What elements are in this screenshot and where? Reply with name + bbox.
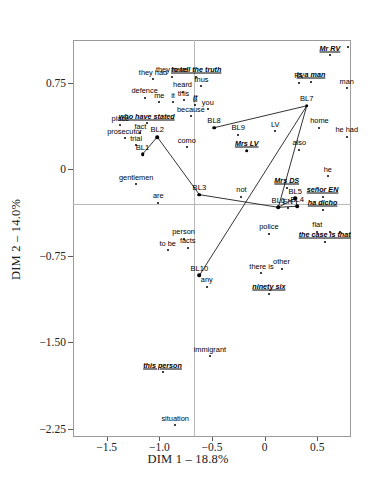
data-point — [152, 78, 154, 80]
point-label: man — [340, 76, 354, 85]
data-point — [141, 152, 145, 156]
point-label: BL2 — [150, 125, 164, 134]
point-label: BL3 — [193, 183, 207, 192]
y-tick — [68, 169, 73, 170]
point-label: ninety six — [252, 282, 285, 291]
data-point — [158, 101, 160, 103]
point-label: señor EN — [307, 185, 339, 194]
data-point — [124, 137, 126, 139]
y-tick-label: −2.25 — [6, 423, 66, 435]
point-label: there is — [249, 261, 273, 270]
data-point — [295, 204, 299, 208]
data-point — [260, 272, 262, 274]
data-point — [347, 46, 349, 48]
point-label: gentlemen — [119, 172, 154, 181]
data-point — [198, 193, 202, 197]
data-point — [167, 249, 169, 251]
data-point — [144, 97, 146, 99]
point-label: flat — [312, 220, 322, 229]
point-label: BL1 — [136, 142, 150, 151]
data-point — [206, 286, 208, 288]
point-label: it — [171, 90, 175, 99]
data-point — [190, 115, 192, 117]
data-point — [187, 247, 189, 249]
y-axis-title: DIM 2 – 14.0% — [9, 180, 24, 300]
data-point — [268, 293, 270, 295]
point-label: ha dicho — [308, 198, 338, 207]
point-label: it — [193, 93, 197, 102]
data-point — [183, 99, 185, 101]
point-label: BL9 — [232, 123, 246, 132]
point-label: police — [259, 222, 278, 231]
point-label: immigrant — [194, 344, 226, 353]
point-label: are — [153, 191, 164, 200]
data-point — [324, 241, 326, 243]
point-label: BL10 — [190, 263, 208, 272]
y-tick-label: −1.50 — [6, 336, 66, 348]
data-point — [318, 127, 320, 129]
point-label: facts — [180, 236, 196, 245]
data-point — [287, 207, 289, 209]
data-point — [245, 149, 249, 153]
point-label: BL7 — [300, 94, 314, 103]
data-point — [237, 134, 239, 136]
data-point — [186, 146, 188, 148]
data-point — [212, 126, 216, 130]
point-label: Mr RV — [320, 43, 341, 52]
point-label: RV — [294, 71, 304, 80]
data-point — [277, 206, 281, 210]
data-point — [322, 209, 324, 211]
point-label: to be — [160, 238, 176, 247]
point-label: Mrs DS — [274, 176, 299, 185]
point-label: me — [154, 90, 164, 99]
point-label: place — [112, 113, 130, 122]
data-point — [298, 82, 300, 84]
y-tick — [68, 83, 73, 84]
data-point — [162, 371, 164, 373]
data-point — [327, 175, 329, 177]
data-point — [329, 54, 331, 56]
data-point — [346, 136, 348, 138]
x-axis-title: DIM 1 – 18.8% — [0, 452, 376, 467]
point-label: other — [273, 257, 290, 266]
data-point — [346, 87, 348, 89]
data-point — [207, 108, 209, 110]
point-label: this — [178, 88, 190, 97]
data-point — [135, 183, 137, 185]
point-label: because — [177, 104, 205, 113]
data-point — [240, 196, 242, 198]
point-label: trial — [130, 133, 142, 142]
point-label: BL8 — [207, 116, 221, 125]
data-point — [274, 130, 276, 132]
point-label: any — [201, 275, 213, 284]
data-point — [155, 135, 159, 139]
point-label: home — [310, 116, 329, 125]
y-tick — [68, 256, 73, 257]
data-point — [172, 101, 174, 103]
point-label: to tell the truth — [171, 65, 221, 74]
point-label: also — [293, 138, 307, 147]
point-label: BL4 — [291, 194, 305, 203]
data-point — [157, 202, 159, 204]
point-label: Mrs LV — [235, 139, 259, 148]
y-tick — [68, 342, 73, 343]
point-label: situation — [161, 413, 189, 422]
data-point — [281, 268, 283, 270]
point-label: he — [324, 164, 332, 173]
point-label: not — [236, 185, 246, 194]
point-label: como — [178, 135, 196, 144]
point-label: the case is that — [299, 230, 351, 239]
y-tick — [68, 429, 73, 430]
point-label: this person — [143, 360, 182, 369]
data-point — [310, 81, 312, 83]
scatter-plot: Mr RVis a manRVmanthey hadthey haveto te… — [0, 0, 376, 478]
y-tick-label: 0 — [6, 163, 66, 175]
point-label: he had — [335, 125, 358, 134]
data-point — [209, 355, 211, 357]
data-point — [171, 76, 173, 78]
point-label: person — [172, 227, 195, 236]
point-label: LV — [271, 119, 280, 128]
data-point — [200, 85, 202, 87]
point-label: thus — [194, 74, 208, 83]
data-point — [305, 104, 309, 108]
